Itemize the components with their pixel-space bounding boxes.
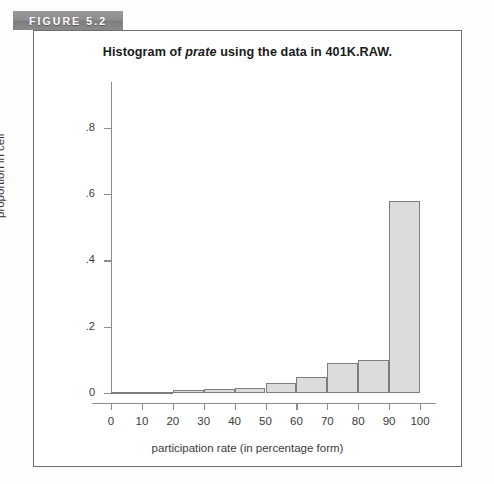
x-axis-tick [389, 403, 390, 410]
y-axis-tick-label: .8 [55, 121, 95, 133]
histogram-bar [111, 392, 142, 394]
histogram-bar [389, 201, 420, 393]
y-axis-tick [104, 128, 111, 129]
x-axis-title: participation rate (in percentage form) [33, 442, 462, 454]
x-axis-tick [358, 403, 359, 410]
x-axis-tick [173, 403, 174, 410]
x-axis-tick [111, 403, 112, 410]
x-axis-tick [204, 403, 205, 410]
histogram-bar [142, 392, 173, 394]
histogram-bar [204, 389, 235, 393]
x-axis-tick [235, 403, 236, 410]
histogram-bar [327, 363, 358, 393]
figure-page: FIGURE 5.2 Histogram of prate using the … [0, 0, 494, 484]
y-axis-tick [104, 260, 111, 261]
histogram-bar [296, 377, 327, 393]
x-axis-tick [420, 403, 421, 410]
histogram-bar [173, 390, 204, 393]
x-axis-tick-label: 100 [400, 415, 440, 427]
histogram-bar [235, 388, 266, 393]
y-axis-tick-label: 0 [55, 386, 95, 398]
y-axis-tick [104, 393, 111, 394]
x-axis-tick [296, 403, 297, 410]
y-axis-tick-label: .6 [55, 187, 95, 199]
chart-plot-area: 0.2.4.6.80102030405060708090100 [0, 0, 494, 484]
y-axis-tick [104, 327, 111, 328]
histogram-bar [266, 383, 297, 393]
x-axis-tick [327, 403, 328, 410]
histogram-bar [358, 360, 389, 393]
y-axis-title: proportion in cell [0, 134, 6, 218]
y-axis-tick [104, 194, 111, 195]
x-axis-tick [142, 403, 143, 410]
x-axis-tick [266, 403, 267, 410]
y-axis-tick-label: .4 [55, 253, 95, 265]
y-axis-tick-label: .2 [55, 320, 95, 332]
